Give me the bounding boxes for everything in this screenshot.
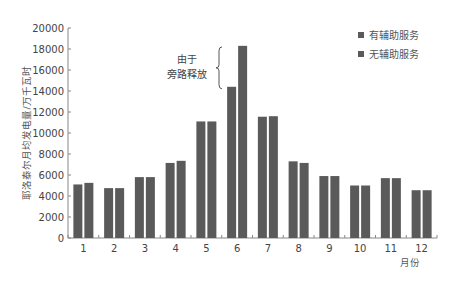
bar-with-aux-month-4 bbox=[166, 163, 175, 238]
y-tick-label: 6000 bbox=[39, 170, 64, 181]
legend: 有辅助服务无辅助服务 bbox=[358, 29, 419, 60]
bar-with-aux-month-9 bbox=[319, 176, 328, 238]
bar-with-aux-month-3 bbox=[135, 177, 144, 238]
bar-without-aux-month-12 bbox=[423, 190, 432, 238]
bar-with-aux-month-7 bbox=[258, 117, 267, 238]
bar-with-aux-month-2 bbox=[104, 188, 113, 238]
x-tick-label: 8 bbox=[295, 243, 301, 254]
x-tick-label: 1 bbox=[80, 243, 86, 254]
y-tick-label: 10000 bbox=[32, 128, 64, 139]
y-tick-label: 14000 bbox=[32, 86, 64, 97]
y-tick-label: 0 bbox=[58, 233, 64, 244]
bar-with-aux-month-11 bbox=[381, 178, 390, 238]
x-tick-label: 2 bbox=[111, 243, 117, 254]
bar-without-aux-month-7 bbox=[269, 116, 278, 238]
x-tick-label: 11 bbox=[385, 243, 398, 254]
bar-with-aux-month-5 bbox=[196, 121, 205, 238]
y-tick-label: 12000 bbox=[32, 107, 64, 118]
bar-without-aux-month-1 bbox=[84, 183, 93, 238]
x-tick-label: 5 bbox=[203, 243, 209, 254]
x-tick-label: 9 bbox=[326, 243, 332, 254]
x-tick-label: 3 bbox=[142, 243, 148, 254]
bar-without-aux-month-2 bbox=[115, 188, 124, 238]
annotation-text: 旁路释放 bbox=[167, 68, 207, 80]
y-tick-label: 4000 bbox=[39, 191, 64, 202]
legend-label: 无辅助服务 bbox=[369, 48, 419, 60]
bar-with-aux-month-1 bbox=[73, 184, 82, 238]
bar-without-aux-month-10 bbox=[361, 186, 370, 239]
bar-without-aux-month-8 bbox=[300, 163, 309, 238]
x-tick-label: 10 bbox=[354, 243, 367, 254]
legend-swatch bbox=[358, 32, 364, 38]
x-axis-title: 月份 bbox=[400, 257, 420, 268]
bar-without-aux-month-5 bbox=[207, 121, 216, 238]
annotation-text: 由于 bbox=[177, 53, 197, 65]
bar-without-aux-month-9 bbox=[330, 176, 339, 238]
x-tick-label: 4 bbox=[172, 243, 178, 254]
x-tick-label: 6 bbox=[234, 243, 240, 254]
bar-without-aux-month-3 bbox=[146, 177, 155, 238]
y-axis: 0200040006000800010000120001400016000180… bbox=[32, 23, 71, 244]
bar-without-aux-month-4 bbox=[177, 161, 186, 238]
y-axis-title: 耶洛泰尔月均发电量/万千瓦时 bbox=[21, 66, 32, 199]
legend-label: 有辅助服务 bbox=[369, 29, 419, 41]
bar-chart: 0200040006000800010000120001400016000180… bbox=[0, 0, 454, 288]
bar-without-aux-month-11 bbox=[392, 178, 401, 238]
x-tick-label: 7 bbox=[265, 243, 271, 254]
bar-with-aux-month-6 bbox=[227, 87, 236, 238]
legend-swatch bbox=[358, 51, 364, 57]
y-tick-label: 16000 bbox=[32, 65, 64, 76]
annotation-bypass-release: 由于旁路释放 bbox=[167, 47, 222, 89]
bars bbox=[73, 46, 431, 238]
bar-without-aux-month-6 bbox=[238, 46, 247, 238]
brace-icon bbox=[216, 47, 222, 89]
y-tick-label: 2000 bbox=[39, 212, 64, 223]
x-tick-label: 12 bbox=[415, 243, 428, 254]
bar-with-aux-month-10 bbox=[350, 186, 359, 239]
y-tick-label: 18000 bbox=[32, 44, 64, 55]
y-tick-label: 20000 bbox=[32, 23, 64, 34]
bar-with-aux-month-8 bbox=[289, 161, 298, 238]
y-tick-label: 8000 bbox=[39, 149, 64, 160]
bar-with-aux-month-12 bbox=[412, 190, 421, 238]
